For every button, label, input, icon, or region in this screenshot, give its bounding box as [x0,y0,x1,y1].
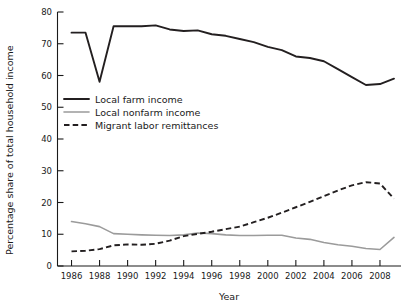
y-tick-label: 20 [41,198,52,208]
y-tick-label: 30 [41,166,52,176]
chart-legend: Local farm income Local nonfarm income M… [64,94,218,131]
x-tick-label: 2006 [341,271,363,281]
x-tick-label: 2000 [257,271,279,281]
x-tick-label: 1990 [117,271,139,281]
x-axis-tick-labels: 1986198819901992199419961998200020022004… [61,271,391,281]
x-tick-label: 2004 [313,271,335,281]
y-tick-label: 70 [41,39,52,49]
y-axis-ticks [58,12,64,266]
x-tick-label: 2002 [285,271,307,281]
y-axis-title: Percentage share of total household inco… [4,45,15,255]
x-tick-label: 1994 [173,271,195,281]
line-chart: Percentage share of total household inco… [0,0,417,305]
y-tick-label: 50 [41,102,52,112]
series-line-local-farm-income [72,25,394,85]
y-tick-label: 10 [41,229,52,239]
y-tick-label: 40 [41,134,52,144]
x-axis-ticks [72,260,380,266]
y-tick-label: 60 [41,71,52,81]
x-axis-title: Year [218,291,239,302]
y-axis-tick-labels: 0 10 20 30 40 50 60 70 80 [41,7,52,271]
chart-container: Percentage share of total household inco… [0,0,417,305]
x-tick-label: 1992 [145,271,167,281]
x-tick-label: 1996 [201,271,223,281]
x-tick-label: 1988 [89,271,111,281]
x-tick-label: 1998 [229,271,251,281]
legend-label-remittances: Migrant labor remittances [95,120,218,131]
y-tick-label: 0 [47,261,52,271]
x-tick-label: 1986 [61,271,83,281]
y-tick-label: 80 [41,7,52,17]
legend-label-farm: Local farm income [95,94,183,105]
legend-label-nonfarm: Local nonfarm income [95,107,201,118]
x-tick-label: 2008 [369,271,391,281]
series-line-migrant-labor-remittances [72,182,394,251]
